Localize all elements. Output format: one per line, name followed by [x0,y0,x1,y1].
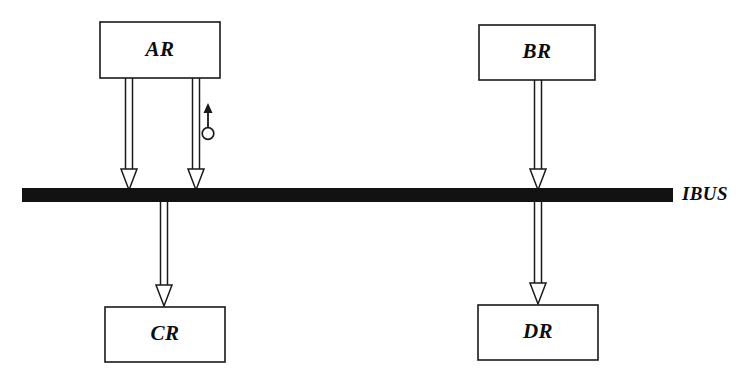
connector-bus-to-cr [156,200,172,306]
arrowhead-down-icon [188,169,204,190]
register-ar-label: AR [143,37,174,61]
register-box-cr: CR [105,307,225,362]
ibus-bar [22,188,673,202]
diagram-canvas: IBUS AR BR CR DR [0,0,747,383]
connector-br-to-bus [530,80,546,190]
arrowhead-down-icon [530,283,546,304]
connector-bus-to-dr [530,200,546,304]
ibus-label: IBUS [681,183,728,204]
arrowhead-down-icon [156,285,172,306]
register-box-br: BR [479,25,595,80]
arrowhead-down-icon [530,169,546,190]
control-arrow-up-icon [204,103,213,113]
arrowhead-down-icon [121,169,137,190]
control-circle-icon [202,128,214,140]
register-dr-label: DR [522,319,553,343]
register-transfer-diagram: IBUS AR BR CR DR [0,0,747,383]
connector-ar-to-bus-left [121,78,137,190]
register-box-ar: AR [100,22,220,78]
ar-control-signal-marker [202,103,214,139]
register-box-dr: DR [478,305,598,360]
register-cr-label: CR [150,321,179,345]
register-br-label: BR [521,39,551,63]
